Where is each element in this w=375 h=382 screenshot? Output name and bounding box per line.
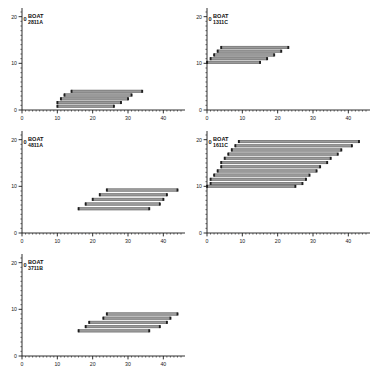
interval-bar — [234, 144, 352, 147]
x-tick-label: 20 — [90, 238, 96, 244]
x-tick-label: 10 — [54, 115, 60, 121]
interval-bar — [224, 157, 332, 160]
panel-plot-area: 010203040010200BOAT1611C — [185, 123, 372, 249]
y-tick-label: 0 — [199, 230, 202, 236]
y-tick-label: 10 — [11, 60, 17, 66]
x-tick-label: 20 — [275, 238, 281, 244]
x-tick-label: 20 — [90, 361, 96, 367]
interval-bar — [213, 53, 275, 56]
x-tick-label: 40 — [345, 115, 351, 121]
interval-bar — [210, 57, 268, 60]
x-tick-label: 10 — [239, 115, 245, 121]
x-tick-label: 0 — [21, 115, 24, 121]
x-tick-label: 0 — [21, 361, 24, 367]
interval-bar — [64, 94, 133, 97]
y-tick-label: 20 — [196, 137, 202, 143]
interval-bar — [78, 207, 151, 210]
interval-bar — [220, 165, 321, 168]
panel-id-label: 2811A — [28, 19, 43, 25]
interval-bar — [227, 153, 338, 156]
interval-bar — [99, 193, 168, 196]
y-tick-label: 10 — [11, 306, 17, 312]
y-tick-label: 10 — [11, 183, 17, 189]
panel-id-label: 1611C — [213, 142, 228, 148]
interval-bar — [71, 90, 144, 93]
panel-id-label: 3711B — [28, 265, 43, 271]
panel-zero-label: 0 — [24, 139, 27, 145]
interval-bar — [106, 189, 179, 192]
interval-bar — [210, 182, 304, 185]
x-tick-label: 40 — [160, 361, 166, 367]
interval-bar — [231, 148, 342, 151]
panel-2811A: 010203040010200BOAT2811A — [0, 0, 187, 126]
interval-bar — [92, 198, 165, 201]
x-tick-label: 10 — [54, 238, 60, 244]
x-tick-label: 10 — [54, 361, 60, 367]
panel-plot-area: 010203040010200BOAT4811A — [0, 123, 187, 249]
panel-id-label: 1311C — [213, 19, 228, 25]
y-tick-label: 20 — [196, 14, 202, 20]
panel-plot-area: 010203040010200BOAT1311C — [185, 0, 372, 126]
panel-zero-label: 0 — [24, 262, 27, 268]
y-tick-label: 20 — [11, 137, 17, 143]
panel-zero-label: 0 — [24, 16, 27, 22]
panel-id-label: 4811A — [28, 142, 43, 148]
interval-bar — [220, 46, 289, 49]
interval-bar — [85, 203, 161, 206]
interval-bar — [206, 185, 296, 188]
x-tick-label: 30 — [125, 361, 131, 367]
panel-zero-label: 0 — [209, 16, 212, 22]
interval-bar — [220, 161, 328, 164]
interval-bar — [106, 313, 179, 316]
interval-bar — [56, 105, 114, 108]
panel-zero-label: 0 — [209, 139, 212, 145]
x-tick-label: 20 — [275, 115, 281, 121]
interval-bar — [206, 61, 261, 64]
x-tick-label: 10 — [239, 238, 245, 244]
multi-panel-interval-chart: 010203040010200BOAT2811A 010203040010200… — [0, 0, 375, 382]
interval-bar — [213, 174, 310, 177]
y-tick-label: 10 — [196, 60, 202, 66]
interval-bar — [217, 169, 318, 172]
x-tick-label: 40 — [345, 238, 351, 244]
interval-bar — [88, 321, 168, 324]
interval-bar — [56, 101, 122, 104]
x-tick-label: 30 — [310, 115, 316, 121]
y-tick-label: 20 — [11, 260, 17, 266]
panel-1611C: 010203040010200BOAT1611C — [185, 123, 372, 249]
panel-plot-area: 010203040010200BOAT3711B — [0, 246, 187, 372]
x-tick-label: 30 — [125, 238, 131, 244]
panel-1311C: 010203040010200BOAT1311C — [185, 0, 372, 126]
y-tick-label: 0 — [14, 353, 17, 359]
interval-bar — [217, 50, 283, 53]
panel-plot-area: 010203040010200BOAT2811A — [0, 0, 187, 126]
interval-bar — [102, 317, 171, 320]
panel-4811A: 010203040010200BOAT4811A — [0, 123, 187, 249]
x-tick-label: 30 — [310, 238, 316, 244]
panel-3711B: 010203040010200BOAT3711B — [0, 246, 187, 372]
y-tick-label: 20 — [11, 14, 17, 20]
interval-bar — [60, 97, 129, 100]
y-tick-label: 0 — [199, 107, 202, 113]
x-tick-label: 40 — [160, 238, 166, 244]
x-tick-label: 30 — [125, 115, 131, 121]
interval-bar — [85, 325, 161, 328]
x-tick-label: 0 — [206, 238, 209, 244]
y-tick-label: 0 — [14, 107, 17, 113]
interval-bar — [78, 329, 151, 332]
y-tick-label: 0 — [14, 230, 17, 236]
x-tick-label: 0 — [206, 115, 209, 121]
x-tick-label: 0 — [21, 238, 24, 244]
interval-bar — [210, 178, 307, 181]
interval-bar — [238, 140, 360, 143]
y-tick-label: 10 — [196, 183, 202, 189]
x-tick-label: 40 — [160, 115, 166, 121]
x-tick-label: 20 — [90, 115, 96, 121]
